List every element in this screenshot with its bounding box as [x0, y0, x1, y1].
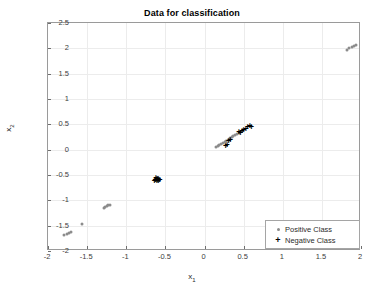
y-tick-label: 1.5: [59, 68, 69, 77]
gridline-horizontal: [48, 99, 359, 100]
y-tick-label: -1.5: [56, 220, 69, 229]
gridline-vertical: [87, 23, 88, 249]
page-title: Data for classification: [0, 8, 384, 18]
x-axis-label-subscript: 1: [192, 277, 195, 283]
x-tick: [205, 246, 206, 249]
x-tick: [165, 246, 166, 249]
gridline-horizontal: [48, 124, 359, 125]
plus-marker-icon: +: [271, 236, 285, 245]
y-tick: [48, 200, 51, 201]
y-axis-label-subscript: 2: [9, 124, 15, 127]
gridline-horizontal: [48, 150, 359, 151]
y-tick-label: -2: [62, 246, 69, 255]
y-tick: [48, 74, 51, 75]
y-tick: [48, 226, 51, 227]
x-tick-label: -1: [122, 252, 129, 261]
y-tick-label: 2: [65, 43, 69, 52]
y-tick-label: 0: [65, 144, 69, 153]
legend-label-positive-class: Positive Class: [285, 225, 332, 234]
x-tick-label: 0.5: [237, 252, 247, 261]
y-tick-label: 1: [65, 94, 69, 103]
y-tick-label: 2.5: [59, 18, 69, 27]
gridline-horizontal: [48, 74, 359, 75]
x-axis-label: x1: [0, 272, 384, 283]
data-point-positive-class: [108, 203, 111, 206]
gridline-vertical: [322, 23, 323, 249]
x-tick: [361, 246, 362, 249]
x-tick-label: 2: [358, 252, 362, 261]
x-tick-label: 0: [201, 252, 205, 261]
chart-legend[interactable]: Positive Class + Negative Class: [265, 220, 360, 249]
x-tick: [48, 246, 49, 249]
legend-item-positive-class[interactable]: Positive Class: [266, 224, 359, 235]
data-point-positive-class: [70, 230, 73, 233]
data-point-negative-class: [153, 176, 160, 183]
x-tick-label: -0.5: [158, 252, 171, 261]
gridline-horizontal: [48, 200, 359, 201]
x-tick: [244, 246, 245, 249]
y-tick-label: -1: [62, 195, 69, 204]
data-point-negative-class: [248, 124, 255, 131]
x-tick-label: 1: [280, 252, 284, 261]
gridline-horizontal: [48, 175, 359, 176]
x-tick: [87, 246, 88, 249]
y-tick: [48, 48, 51, 49]
y-tick: [48, 175, 51, 176]
gridline-vertical: [205, 23, 206, 249]
x-tick-label: 1.5: [316, 252, 326, 261]
gridline-vertical: [165, 23, 166, 249]
dot-marker-icon: [271, 228, 285, 231]
data-point-positive-class: [80, 222, 83, 225]
y-tick-label: 0.5: [59, 119, 69, 128]
x-tick: [126, 246, 127, 249]
y-axis-label: x2: [4, 124, 15, 131]
plot-area: [47, 22, 360, 250]
gridline-vertical: [126, 23, 127, 249]
legend-label-negative-class: Negative Class: [285, 236, 335, 245]
y-tick: [48, 99, 51, 100]
y-tick: [48, 150, 51, 151]
x-tick-label: -1.5: [80, 252, 93, 261]
gridline-horizontal: [48, 48, 359, 49]
legend-item-negative-class[interactable]: + Negative Class: [266, 235, 359, 246]
y-tick-label: -0.5: [56, 170, 69, 179]
gridline-vertical: [283, 23, 284, 249]
x-tick-label: -2: [44, 252, 51, 261]
y-tick: [48, 23, 51, 24]
figure-canvas: Data for classification -2-1.5-1-0.500.5…: [0, 0, 384, 298]
y-tick: [48, 124, 51, 125]
data-point-positive-class: [355, 44, 358, 47]
data-point-negative-class: [227, 137, 234, 144]
y-axis-label-base: x: [4, 128, 13, 132]
